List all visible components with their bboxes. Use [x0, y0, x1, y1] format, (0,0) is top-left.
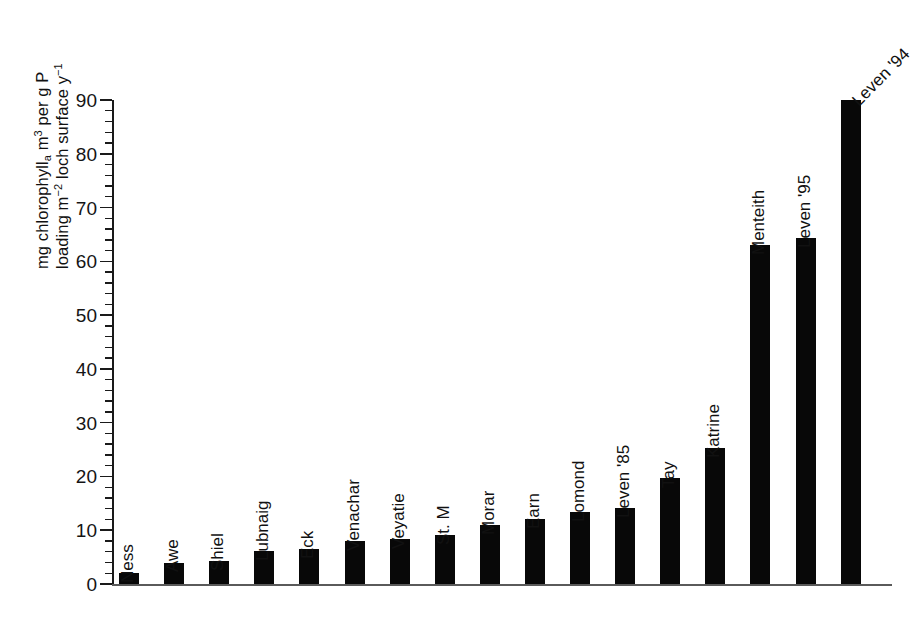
y-tick-minor: [105, 411, 112, 412]
y-tick-minor: [105, 454, 112, 455]
y-tick-major: [100, 529, 112, 531]
bar-category-label: Veyatie: [390, 494, 407, 550]
y-tick-minor: [105, 250, 112, 251]
y-tick-label: 60: [76, 252, 97, 271]
y-tick-major: [100, 99, 112, 101]
bar-category-label: Leven '95: [796, 175, 813, 248]
y-tick-label: 30: [76, 413, 97, 432]
y-tick-minor: [105, 218, 112, 219]
y-tick-major: [100, 314, 112, 316]
bar-category-label: Venachar: [345, 479, 362, 551]
y-tick-minor: [105, 304, 112, 305]
bar-category-label: Awe: [164, 540, 181, 573]
bar-category-label: Lomond: [570, 461, 587, 522]
y-tick-major: [100, 207, 112, 209]
bar-category-label: St. M: [435, 505, 452, 545]
bar: [796, 238, 816, 584]
bar-category-label: Morar: [480, 490, 497, 534]
bar-category-label: Earn: [525, 494, 542, 530]
bar-category-label: Eck: [299, 530, 316, 558]
y-tick-label: 70: [76, 198, 97, 217]
y-tick-minor: [105, 433, 112, 434]
y-axis-label-line-1: mg chlorophylla m3 per g P: [32, 0, 46, 269]
y-tick-minor: [105, 443, 112, 444]
bar: [525, 519, 545, 584]
y-tick-minor: [105, 336, 112, 337]
y-tick-minor: [105, 400, 112, 401]
y-tick-minor: [105, 228, 112, 229]
y-tick-label: 0: [86, 575, 97, 594]
y-tick-minor: [105, 293, 112, 294]
bar-category-label: Ness: [119, 545, 136, 584]
y-tick-label: 40: [76, 359, 97, 378]
bar: [570, 512, 590, 584]
bar: [705, 448, 725, 584]
y-tick-minor: [105, 110, 112, 111]
y-tick-major: [100, 422, 112, 424]
y-tick-label: 10: [76, 521, 97, 540]
y-tick-minor: [105, 282, 112, 283]
y-tick-minor: [105, 390, 112, 391]
y-tick-minor: [105, 540, 112, 541]
bar-category-label: Shiel: [209, 534, 226, 572]
y-tick-minor: [105, 487, 112, 488]
y-tick-minor: [105, 508, 112, 509]
y-tick-minor: [105, 175, 112, 176]
y-tick-minor: [105, 519, 112, 520]
y-tick-minor: [105, 325, 112, 326]
bar: [750, 245, 770, 584]
bar: [660, 478, 680, 584]
y-axis-label-line-2: loading m−2 loch surface y−1: [52, 0, 66, 269]
y-tick-major: [100, 368, 112, 370]
x-axis-baseline: [112, 584, 892, 586]
y-tick-minor: [105, 196, 112, 197]
y-tick-minor: [105, 132, 112, 133]
bar-category-label: Lubnaig: [254, 500, 271, 561]
y-tick-minor: [105, 573, 112, 574]
y-tick-major: [100, 153, 112, 155]
bar: [615, 508, 635, 584]
y-tick-minor: [105, 357, 112, 358]
y-tick-major: [100, 583, 112, 585]
y-tick-minor: [105, 465, 112, 466]
y-tick-minor: [105, 347, 112, 348]
y-tick-label: 50: [76, 306, 97, 325]
y-tick-label: 80: [76, 144, 97, 163]
y-tick-minor: [105, 185, 112, 186]
y-tick-minor: [105, 562, 112, 563]
y-tick-label: 90: [76, 91, 97, 110]
bar: [841, 100, 861, 584]
bar-category-label: Leven '94: [849, 45, 913, 109]
y-tick-minor: [105, 239, 112, 240]
y-tick-minor: [105, 379, 112, 380]
y-tick-minor: [105, 551, 112, 552]
bar-category-label: Leven '85: [615, 445, 632, 518]
y-tick-minor: [105, 497, 112, 498]
y-tick-major: [100, 476, 112, 478]
y-tick-minor: [105, 164, 112, 165]
y-axis-spine: [112, 100, 114, 586]
bar-category-label: Tay: [660, 461, 677, 487]
bar-category-label: Menteith: [750, 190, 767, 255]
y-tick-major: [100, 261, 112, 263]
y-tick-minor: [105, 142, 112, 143]
y-tick-label: 20: [76, 467, 97, 486]
bar-category-label: Katrine: [705, 405, 722, 459]
plot-area: 0102030405060708090 NessAweShielLubnaigE…: [112, 100, 892, 586]
y-tick-minor: [105, 271, 112, 272]
y-tick-minor: [105, 121, 112, 122]
